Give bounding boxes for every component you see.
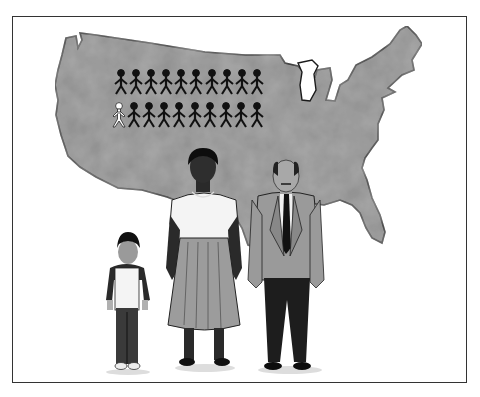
us-map	[55, 26, 422, 248]
child-figure	[106, 232, 150, 375]
illustration	[0, 0, 480, 397]
